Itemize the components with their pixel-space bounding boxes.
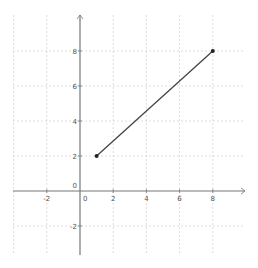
data-point (95, 154, 99, 158)
data-series (95, 49, 215, 158)
tick-labels: -202468-202468 (43, 48, 215, 231)
coordinate-plane: -202468-202468 (0, 0, 258, 268)
y-tick-label: -2 (70, 223, 77, 231)
line-segment (97, 51, 213, 156)
x-tick-label: -2 (43, 195, 50, 203)
plot-area: -202468-202468 (0, 0, 258, 268)
x-tick-label: 2 (111, 195, 115, 203)
y-tick-label: 2 (73, 153, 77, 161)
grid-lines (13, 15, 245, 255)
y-tick-label: 4 (73, 118, 78, 126)
x-tick-label: 0 (83, 195, 87, 203)
y-tick-label: 0 (73, 182, 77, 190)
x-tick-label: 6 (177, 195, 182, 203)
x-tick-label: 8 (211, 195, 215, 203)
x-tick-label: 4 (144, 195, 149, 203)
y-tick-label: 6 (73, 83, 78, 91)
data-point (211, 49, 215, 53)
y-tick-label: 8 (73, 48, 77, 56)
